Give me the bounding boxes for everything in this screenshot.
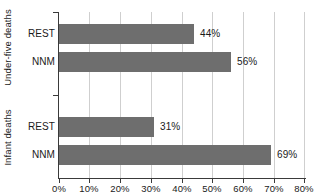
x-axis-label-50: 50% [202,184,221,194]
axis-category-label-infant-nnm: NNM [14,150,55,160]
data-label-infant-rest: 31% [160,122,180,132]
x-axis-label-80: 80% [294,184,313,194]
bar-under-five-nnm [59,52,231,72]
x-axis-label-40: 40% [172,184,191,194]
data-label-under-five-rest: 44% [200,29,220,39]
axis-category-label-under-five-rest: REST [14,29,55,39]
axis-group-label-under-five: Under-five deaths [0,4,14,90]
axis-group-label-infant-text: Infant deaths [2,109,13,165]
plot-area: 44% 56% 31% 69% [59,12,305,178]
axis-group-label-under-five-text: Under-five deaths [2,9,13,86]
gridline-80 [304,12,305,178]
bar-infant-nnm [59,145,271,165]
x-axis-label-20: 20% [110,184,129,194]
axis-group-label-infant: Infant deaths [0,96,14,178]
x-axis-label-30: 30% [141,184,160,194]
data-label-under-five-nnm: 56% [237,57,257,67]
bar-chart: Under-five deaths Infant deaths REST NNM… [0,0,322,195]
x-axis-label-60: 60% [233,184,252,194]
data-label-infant-nnm: 69% [277,150,297,160]
gridline-70 [274,12,275,178]
x-axis-label-10: 10% [79,184,98,194]
x-axis-label-70: 70% [264,184,283,194]
y-axis-tick-top [53,12,59,13]
y-axis-tick-group-separator [53,95,59,96]
bar-infant-rest [59,117,154,137]
x-axis-label-0: 0% [52,184,66,194]
axis-category-label-under-five-nnm: NNM [14,57,55,67]
axis-category-label-infant-rest: REST [14,122,55,132]
bar-under-five-rest [59,24,194,44]
